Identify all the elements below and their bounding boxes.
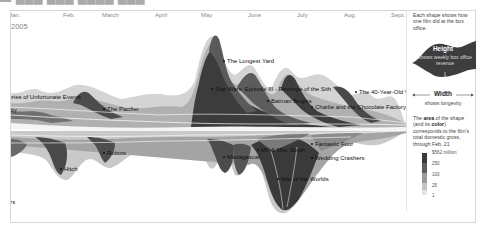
scale-tick: 25 [432, 183, 437, 189]
cropped-top-text: ▬ ▆▇▆ ▅▆▇ ▆▇▆▇ ▇▆▇ [0, 0, 230, 5]
marker-dot-icon [223, 60, 225, 62]
marker-dot-icon [103, 152, 105, 154]
film-label: War of the Worlds [277, 176, 329, 183]
streamgraph-chart: Jan. Feb. March April May June July Aug.… [11, 11, 406, 224]
film-label: The Pacifier [103, 106, 139, 113]
graphic-frame: Jan. Feb. March April May June July Aug.… [10, 10, 476, 223]
marker-dot-icon [277, 178, 279, 180]
film-label: Wedding Crashers [311, 155, 365, 162]
scale-tick: 1 [432, 193, 435, 199]
legend-width-desc: shows longevity [410, 100, 476, 106]
legend-area-text: The area of the shape (and its color) co… [413, 115, 475, 147]
legend-intro: Each shape shows how one film did at the… [413, 12, 473, 31]
film-label: Mr. & Mrs. Smith [257, 147, 305, 154]
scale-tick: 100 [432, 172, 440, 178]
film-label: Madagascar [223, 154, 260, 161]
legend-height-title: Height [410, 46, 476, 52]
film-label: Robots [103, 150, 126, 157]
legend-divider [406, 11, 407, 211]
stream-layers [11, 11, 406, 224]
legend-height-desc: shows weekly box office revenue [418, 54, 472, 66]
film-label: Batman Begins [267, 98, 312, 105]
legend-width-title: Width [410, 91, 476, 97]
film-label: Lemony Snicket's A Series of Unfortunate… [11, 94, 81, 101]
marker-dot-icon [103, 108, 105, 110]
legend-panel: Each shape shows how one film did at the… [410, 11, 476, 224]
marker-dot-icon [223, 156, 225, 158]
marker-dot-icon [355, 91, 357, 93]
marker-dot-icon [257, 149, 259, 151]
film-label: Hitch [60, 166, 78, 173]
scale-tick: $562 million [432, 150, 457, 156]
film-label: Meet the Fockers [11, 199, 15, 206]
film-label: The 40-Year-Old Virgin [355, 89, 406, 96]
film-label: The Longest Yard [223, 58, 274, 65]
marker-dot-icon [311, 157, 313, 159]
marker-dot-icon [60, 168, 62, 170]
marker-dot-icon [311, 143, 313, 145]
film-label: Million Dollar Baby [11, 107, 17, 114]
marker-dot-icon [267, 100, 269, 102]
film-label: Charlie and the Chocolate Factory [311, 104, 406, 111]
color-scale-bar [422, 153, 427, 195]
film-label: Fantastic Four [311, 141, 353, 148]
scale-tick: 250 [432, 161, 440, 167]
marker-dot-icon [211, 88, 213, 90]
marker-dot-icon [311, 106, 313, 108]
film-label: Star Wars: Episode III - Revenge of the … [211, 86, 331, 93]
